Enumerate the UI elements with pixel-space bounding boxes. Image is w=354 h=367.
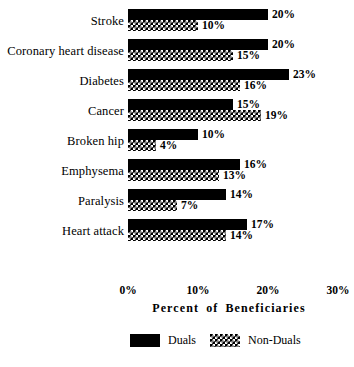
bar-value-non-duals: 14% bbox=[230, 230, 253, 241]
bar-group: Emphysema16%13% bbox=[0, 156, 354, 186]
bar-value-non-duals: 19% bbox=[265, 110, 288, 121]
bar-pair: 20%15% bbox=[128, 39, 354, 63]
bar-value-duals: 23% bbox=[293, 69, 316, 80]
x-axis-title: Percent of Beneficiaries bbox=[0, 301, 354, 316]
bar-value-duals: 10% bbox=[202, 129, 225, 140]
bar-value-non-duals: 4% bbox=[160, 140, 177, 151]
bar-value-non-duals: 7% bbox=[181, 200, 198, 211]
legend-item-duals: Duals bbox=[130, 332, 196, 348]
category-label: Emphysema bbox=[0, 156, 124, 186]
bar-non-duals bbox=[128, 110, 261, 121]
category-label: Broken hip bbox=[0, 126, 124, 156]
bar-pair: 16%13% bbox=[128, 159, 354, 183]
x-axis-tick: 20% bbox=[257, 284, 280, 296]
bar-pair: 17%14% bbox=[128, 219, 354, 243]
x-axis-title-text: Percent of Beneficiaries bbox=[48, 301, 305, 316]
bar-group: Diabetes23%16% bbox=[0, 66, 354, 96]
bar-duals bbox=[128, 189, 226, 200]
bar-value-non-duals: 13% bbox=[223, 170, 246, 181]
bar-group: Coronary heart disease20%15% bbox=[0, 36, 354, 66]
x-axis-tick: 10% bbox=[187, 284, 210, 296]
bar-pair: 10%4% bbox=[128, 129, 354, 153]
bar-pair: 20%10% bbox=[128, 9, 354, 33]
bar-group: Broken hip10%4% bbox=[0, 126, 354, 156]
x-axis-tick: 30% bbox=[327, 284, 350, 296]
category-label: Heart attack bbox=[0, 216, 124, 246]
x-axis-line bbox=[128, 282, 339, 283]
bar-value-duals: 16% bbox=[244, 159, 267, 170]
bar-value-duals: 14% bbox=[230, 189, 253, 200]
bar-duals bbox=[128, 99, 233, 110]
bar-value-duals: 15% bbox=[237, 99, 260, 110]
bar-pair: 15%19% bbox=[128, 99, 354, 123]
bar-duals bbox=[128, 9, 268, 20]
bar-value-non-duals: 16% bbox=[244, 80, 267, 91]
category-label: Diabetes bbox=[0, 66, 124, 96]
bar-non-duals bbox=[128, 170, 219, 181]
bar-non-duals bbox=[128, 200, 177, 211]
legend-label-non-duals: Non-Duals bbox=[248, 333, 301, 348]
legend-swatch-non-duals-icon bbox=[210, 334, 240, 347]
bar-value-non-duals: 10% bbox=[202, 20, 225, 31]
bar-pair: 23%16% bbox=[128, 69, 354, 93]
category-label: Stroke bbox=[0, 6, 124, 36]
chart-legend: Duals Non-Duals bbox=[0, 332, 354, 352]
bar-group: Paralysis14%7% bbox=[0, 186, 354, 216]
bar-value-duals: 20% bbox=[272, 39, 295, 50]
plot-area: Stroke20%10%Coronary heart disease20%15%… bbox=[0, 0, 354, 282]
x-axis-tick-labels: 0%10%20%30% bbox=[0, 284, 354, 300]
bar-group: Stroke20%10% bbox=[0, 6, 354, 36]
bar-pair: 14%7% bbox=[128, 189, 354, 213]
x-axis-tick: 0% bbox=[119, 284, 136, 296]
bar-chart: Stroke20%10%Coronary heart disease20%15%… bbox=[0, 0, 354, 367]
bar-value-non-duals: 15% bbox=[237, 50, 260, 61]
legend-swatch-duals-icon bbox=[130, 334, 160, 347]
bar-non-duals bbox=[128, 20, 198, 31]
bar-group: Heart attack17%14% bbox=[0, 216, 354, 246]
legend-item-non-duals: Non-Duals bbox=[210, 332, 301, 348]
bar-non-duals bbox=[128, 50, 233, 61]
legend-label-duals: Duals bbox=[168, 333, 196, 348]
category-label: Cancer bbox=[0, 96, 124, 126]
bar-group: Cancer15%19% bbox=[0, 96, 354, 126]
bar-non-duals bbox=[128, 80, 240, 91]
bar-value-duals: 17% bbox=[251, 219, 274, 230]
category-label: Paralysis bbox=[0, 186, 124, 216]
bar-non-duals bbox=[128, 140, 156, 151]
bar-non-duals bbox=[128, 230, 226, 241]
category-label: Coronary heart disease bbox=[0, 36, 124, 66]
bar-value-duals: 20% bbox=[272, 9, 295, 20]
